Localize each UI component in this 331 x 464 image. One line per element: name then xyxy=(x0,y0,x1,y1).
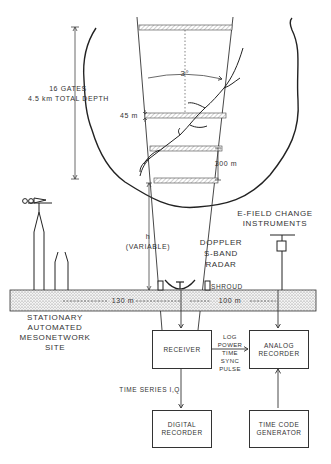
gate-spacing-label: 45 m xyxy=(116,111,142,121)
time-code-generator-box: TIME CODE GENERATOR xyxy=(249,410,309,448)
timeseries-label: TIME SERIES I,Q xyxy=(100,385,180,395)
distance-left-label: 130 m xyxy=(108,296,138,306)
receiver-box: RECEIVER xyxy=(152,330,212,369)
mesonet-tower xyxy=(23,198,68,290)
radar-dish xyxy=(165,280,195,289)
mesonet-label: STATIONARY AUTOMATED MESONETWORK SITE xyxy=(10,313,100,353)
gate-interval-label: 300 m xyxy=(210,159,242,169)
digital-recorder-box: DIGITAL RECORDER xyxy=(152,410,212,448)
height-label: h (VARIABLE) xyxy=(123,232,173,252)
efield-instrument xyxy=(270,235,295,290)
gates-depth-label: 16 GATES 4.5 km TOTAL DEPTH xyxy=(28,84,108,104)
shroud-label: SHROUD xyxy=(211,282,251,292)
signal-label: LOG POWER TIME SYNC PULSE xyxy=(212,333,248,373)
ground-layer xyxy=(10,290,316,311)
radar-label: DOPPLER S-BAND RADAR xyxy=(196,237,246,270)
distance-right-label: 100 m xyxy=(212,296,248,306)
analog-recorder-box: ANALOG RECORDER xyxy=(249,330,309,369)
efield-label: E-FIELD CHANGE INSTRUMENTS xyxy=(230,209,320,229)
beam-angle-label: 3° xyxy=(175,69,195,79)
